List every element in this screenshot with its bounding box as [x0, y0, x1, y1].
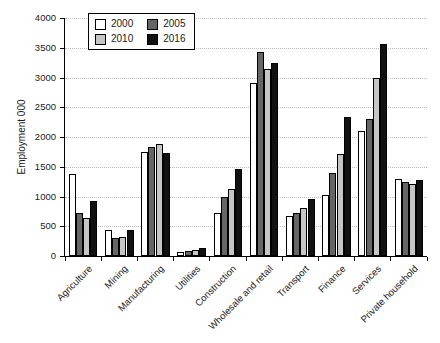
bar-2016-agriculture [90, 201, 97, 256]
x-label-wholesale-and-retail: Wholesale and retail [206, 263, 275, 332]
legend-swatch-2016 [147, 34, 158, 45]
y-tick-0 [60, 256, 64, 257]
y-tick-3000 [60, 78, 64, 79]
y-tick-label-3000: 3000 [18, 73, 56, 83]
y-tick-label-2000: 2000 [18, 132, 56, 142]
bar-2000-transport [286, 216, 293, 256]
y-tick-1500 [60, 167, 64, 168]
x-label-utilities: Utilities [173, 263, 202, 292]
y-tick-label-500: 500 [18, 221, 56, 231]
legend-item-2010: 2010 [95, 33, 133, 45]
x-tick-2 [137, 257, 138, 261]
bar-2010-services [373, 78, 380, 257]
x-label-services: Services [350, 263, 384, 297]
y-tick-label-3500: 3500 [18, 43, 56, 53]
bar-2005-construction [221, 197, 228, 257]
x-tick-10 [427, 257, 428, 261]
bar-2010-utilities [192, 250, 199, 256]
bar-2016-mining [127, 230, 134, 256]
bar-2005-mining [112, 238, 119, 256]
legend-label-2000: 2000 [111, 18, 133, 30]
legend-swatch-2000 [95, 19, 106, 30]
y-tick-label-4000: 4000 [18, 13, 56, 23]
y-tick-2000 [60, 137, 64, 138]
bar-2016-construction [235, 169, 242, 256]
bar-2005-transport [293, 213, 300, 256]
x-tick-1 [101, 257, 102, 261]
y-tick-4000 [60, 18, 64, 19]
x-tick-4 [209, 257, 210, 261]
x-tick-6 [282, 257, 283, 261]
bar-2000-utilities [177, 252, 184, 256]
legend-item-2000: 2000 [95, 18, 133, 30]
x-tick-0 [65, 257, 66, 261]
x-label-agriculture: Agriculture [54, 263, 94, 303]
plot-area: 05001000150020002500300035004000Agricult… [64, 18, 427, 257]
y-tick-500 [60, 226, 64, 227]
bar-2016-transport [308, 199, 315, 256]
bar-2000-private-household [395, 179, 402, 256]
bar-2005-utilities [185, 251, 192, 256]
x-label-finance: Finance [315, 263, 347, 295]
bar-2005-private-household [402, 182, 409, 256]
bar-2000-mining [105, 230, 112, 256]
bar-2000-construction [214, 213, 221, 256]
bar-2010-transport [300, 208, 307, 256]
y-tick-label-0: 0 [18, 251, 56, 261]
y-tick-label-1500: 1500 [18, 162, 56, 172]
bar-2005-services [366, 119, 373, 256]
y-tick-2500 [60, 107, 64, 108]
legend-swatch-2005 [147, 19, 158, 30]
bar-2000-finance [322, 195, 329, 256]
bar-2016-services [380, 44, 387, 256]
bar-2000-wholesale-and-retail [250, 83, 257, 256]
y-tick-label-2500: 2500 [18, 102, 56, 112]
x-tick-7 [318, 257, 319, 261]
bar-2010-wholesale-and-retail [264, 69, 271, 256]
bar-2000-manufacturing [141, 152, 148, 256]
bar-2010-mining [119, 237, 126, 256]
bar-2016-private-household [416, 180, 423, 256]
bar-2010-manufacturing [156, 144, 163, 256]
legend: 2000200520102016 [88, 13, 195, 50]
y-tick-1000 [60, 197, 64, 198]
legend-item-2016: 2016 [147, 33, 185, 45]
bar-2010-finance [337, 154, 344, 256]
bar-2016-manufacturing [163, 153, 170, 256]
legend-item-2005: 2005 [147, 18, 185, 30]
x-tick-8 [354, 257, 355, 261]
x-label-transport: Transport [275, 263, 311, 299]
x-tick-3 [173, 257, 174, 261]
bar-2005-finance [329, 173, 336, 256]
bar-2005-wholesale-and-retail [257, 52, 264, 256]
bar-2005-manufacturing [148, 147, 155, 256]
bar-2005-agriculture [76, 213, 83, 256]
legend-label-2005: 2005 [163, 18, 185, 30]
bar-chart-figure: Employment 000 0500100015002000250030003… [0, 0, 440, 343]
legend-swatch-2010 [95, 34, 106, 45]
x-tick-9 [390, 257, 391, 261]
bar-2010-private-household [409, 184, 416, 256]
legend-label-2016: 2016 [163, 33, 185, 45]
bar-2000-services [358, 131, 365, 256]
y-tick-3500 [60, 48, 64, 49]
x-label-mining: Mining [102, 263, 130, 291]
y-tick-label-1000: 1000 [18, 192, 56, 202]
bar-2016-utilities [199, 248, 206, 256]
bar-2016-wholesale-and-retail [271, 63, 278, 256]
bar-2000-agriculture [69, 174, 76, 256]
bar-2016-finance [344, 117, 351, 256]
legend-label-2010: 2010 [111, 33, 133, 45]
bar-2010-construction [228, 189, 235, 256]
bar-2010-agriculture [83, 218, 90, 256]
x-tick-5 [246, 257, 247, 261]
